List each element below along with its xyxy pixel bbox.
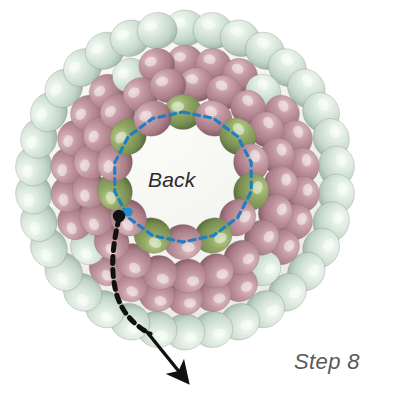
step-number-label: Step 8 bbox=[294, 349, 360, 375]
beaded-sphere-illustration bbox=[0, 0, 397, 394]
start-point-black-marker bbox=[113, 210, 125, 222]
back-label: Back bbox=[148, 168, 196, 192]
figure-canvas: Back Step 8 bbox=[0, 0, 397, 394]
